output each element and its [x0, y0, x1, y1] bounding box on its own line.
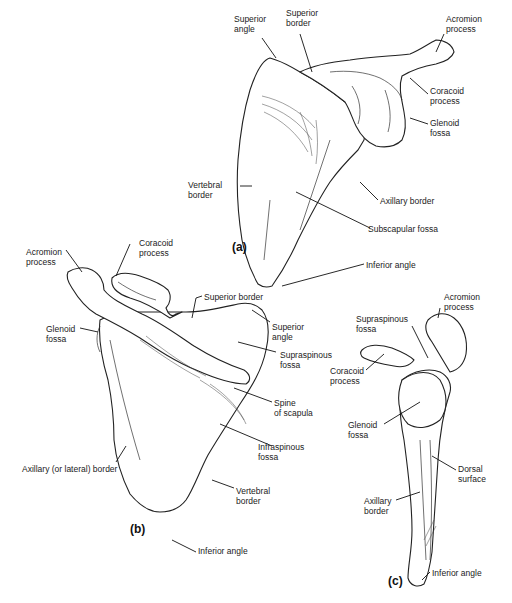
label-a-glenoid-fossa: Glenoid fossa — [430, 118, 459, 138]
label-c-inferior-angle: Inferior angle — [432, 568, 482, 578]
label-c-supraspinous-fossa: Supraspinous fossa — [356, 314, 408, 334]
label-a-subscapular-fossa: Subscapular fossa — [368, 224, 438, 234]
label-a-inferior-angle: Inferior angle — [366, 260, 416, 270]
scapula-view-c-drawing — [361, 314, 467, 586]
label-c-dorsal-surface: Dorsal surface — [458, 464, 486, 484]
label-a-superior-angle: Superior angle — [234, 14, 266, 34]
view-tag-c: (c) — [388, 574, 403, 588]
label-b-spine-of-scapula: Spine of scapula — [274, 398, 313, 418]
label-c-glenoid-fossa: Glenoid fossa — [348, 420, 377, 440]
view-tag-b: (b) — [130, 522, 145, 536]
label-b-superior-angle: Superior angle — [272, 322, 304, 342]
label-a-axillary-border: Axillary border — [380, 196, 434, 206]
label-b-superior-border: Superior border — [204, 292, 263, 302]
label-c-axillary-border: Axillary border — [364, 496, 391, 516]
scapula-diagram: Superior angle Superior border Acromion … — [0, 0, 512, 603]
label-c-coracoid-process: Coracoid process — [330, 366, 364, 386]
scapula-view-a-drawing — [237, 40, 454, 287]
label-a-coracoid-process: Coracoid process — [430, 86, 464, 106]
label-b-axillary-border: Axillary (or lateral) border — [22, 464, 117, 474]
label-b-supraspinous-fossa: Supraspinous fossa — [280, 350, 332, 370]
label-a-superior-border: Superior border — [286, 8, 318, 28]
label-b-acromion-process: Acromion process — [26, 247, 62, 267]
label-a-vertebral-border: Vertebral border — [188, 180, 222, 200]
label-b-inferior-angle: Inferior angle — [198, 546, 248, 556]
label-b-coracoid-process: Coracoid process — [139, 238, 173, 258]
label-c-acromion-process: Acromion process — [444, 292, 480, 312]
label-b-vertebral-border: Vertebral border — [236, 486, 270, 506]
label-a-acromion-process: Acromion process — [446, 14, 482, 34]
label-b-glenoid-fossa: Glenoid fossa — [46, 324, 75, 344]
view-tag-a: (a) — [232, 240, 247, 254]
label-b-infraspinous-fossa: Infraspinous fossa — [258, 442, 304, 462]
